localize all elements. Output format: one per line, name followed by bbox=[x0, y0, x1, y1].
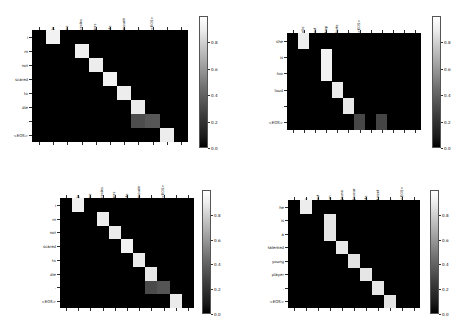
x-axis-tick bbox=[354, 308, 355, 311]
heatmap-cell bbox=[75, 44, 89, 58]
colorbar-tick-label: 0.6 bbox=[214, 237, 221, 242]
y-axis-label: not bbox=[18, 230, 56, 235]
colorbar-tick bbox=[211, 240, 213, 241]
x-axis-label: , bbox=[136, 29, 140, 30]
y-axis-tick bbox=[29, 37, 32, 38]
x-axis-tick bbox=[167, 27, 168, 30]
y-axis-tick bbox=[284, 122, 287, 123]
x-axis-label: , bbox=[149, 197, 153, 198]
colorbar bbox=[430, 190, 439, 314]
colorbar-tick bbox=[211, 289, 213, 290]
x-axis-tick bbox=[167, 142, 168, 145]
y-axis-label: to bbox=[18, 257, 56, 262]
y-axis-tick bbox=[285, 274, 288, 275]
colorbar-tick bbox=[441, 122, 443, 123]
heatmap-plot-area bbox=[288, 200, 420, 308]
colorbar-tick-label: 0.8 bbox=[444, 40, 451, 45]
x-axis-label: joueur bbox=[352, 189, 356, 200]
x-axis-tick bbox=[67, 142, 68, 145]
x-axis-label: je bbox=[76, 195, 80, 198]
x-axis-label: mourir bbox=[122, 18, 126, 30]
colorbar-tick bbox=[208, 69, 210, 70]
y-axis-label: scared bbox=[18, 244, 56, 249]
colorbar-tick bbox=[441, 42, 443, 43]
colorbar-tick-label: 0.6 bbox=[211, 66, 218, 71]
y-axis-label: player bbox=[246, 272, 284, 277]
x-axis-tick bbox=[110, 142, 111, 145]
x-axis-label: elle bbox=[301, 27, 305, 33]
heatmap-cell bbox=[89, 58, 103, 72]
y-axis-label: he bbox=[246, 204, 284, 209]
x-axis-label: de bbox=[364, 196, 368, 201]
x-axis-label: jeune bbox=[340, 190, 344, 200]
heatmap-plot-area bbox=[32, 30, 188, 142]
x-axis-tick bbox=[326, 130, 327, 133]
heatmap-plot-area bbox=[60, 198, 194, 308]
y-axis-label: too bbox=[245, 71, 283, 76]
heatmap-cell bbox=[157, 281, 169, 295]
x-axis-tick bbox=[66, 195, 67, 198]
y-axis-label: is bbox=[246, 218, 284, 223]
heatmap-cell bbox=[72, 198, 84, 212]
x-axis-tick bbox=[393, 30, 394, 33]
x-axis-tick bbox=[393, 130, 394, 133]
colorbar-tick-label: 0.2 bbox=[211, 119, 218, 124]
x-axis-tick bbox=[402, 308, 403, 311]
y-axis-label: <EOS> bbox=[246, 299, 284, 304]
x-axis-tick bbox=[103, 308, 104, 311]
y-axis-label: i bbox=[0, 35, 28, 40]
x-axis-tick bbox=[348, 130, 349, 133]
x-axis-tick bbox=[138, 142, 139, 145]
y-axis-tick bbox=[285, 288, 288, 289]
x-axis-label: <EOS> bbox=[400, 187, 404, 200]
x-axis-tick bbox=[78, 308, 79, 311]
heatmap-cell bbox=[321, 49, 332, 81]
y-axis-label: talented bbox=[246, 245, 284, 250]
x-axis-tick bbox=[360, 130, 361, 133]
x-axis-label: <EOS> bbox=[161, 185, 165, 198]
heatmap-cell bbox=[332, 82, 343, 98]
y-axis-label: to bbox=[0, 91, 28, 96]
colorbar-tick-label: 0.0 bbox=[211, 146, 218, 151]
heatmap-cell bbox=[97, 212, 109, 226]
heatmap-cell bbox=[145, 281, 157, 295]
heatmap-cell bbox=[103, 72, 117, 86]
heatmap-cell bbox=[109, 226, 121, 240]
heatmap-cell bbox=[372, 281, 384, 295]
x-axis-tick bbox=[371, 130, 372, 133]
heatmap-cell bbox=[348, 254, 360, 268]
x-axis-label: ne bbox=[88, 194, 92, 199]
colorbar-tick bbox=[211, 314, 213, 315]
heatmap-cell bbox=[160, 128, 174, 142]
heatmap-cell bbox=[300, 200, 312, 214]
x-axis-label: de bbox=[108, 26, 112, 31]
x-axis-label: est bbox=[313, 28, 317, 34]
x-axis-tick bbox=[337, 130, 338, 133]
heatmap-cell bbox=[121, 239, 133, 253]
x-axis-tick bbox=[414, 308, 415, 311]
x-axis-tick bbox=[306, 308, 307, 311]
figure-grid: jenecrainspasdemourir,<EOS>imnotscaredto… bbox=[0, 0, 459, 334]
y-axis-label: <EOS> bbox=[245, 119, 283, 124]
y-axis-label: i bbox=[18, 202, 56, 207]
x-axis-tick bbox=[90, 308, 91, 311]
heatmap-cell bbox=[133, 253, 145, 267]
colorbar-tick bbox=[208, 122, 210, 123]
x-axis-tick bbox=[39, 142, 40, 145]
heatmap-cell bbox=[376, 114, 387, 130]
x-axis-tick bbox=[188, 195, 189, 198]
x-axis-label: pas bbox=[93, 24, 97, 30]
x-axis-tick bbox=[39, 27, 40, 30]
colorbar-tick bbox=[211, 264, 213, 265]
colorbar-tick bbox=[439, 215, 441, 216]
x-axis-tick bbox=[415, 130, 416, 133]
panel-bottom-left: jenecrainspasdemourir,<EOS>imnotscaredto… bbox=[0, 170, 229, 334]
panel-bottom-right: cestunjeunejoueurdetalent,<EOS>heisatale… bbox=[229, 170, 459, 334]
colorbar-tick-label: 0.2 bbox=[442, 287, 449, 292]
x-axis-tick bbox=[181, 27, 182, 30]
x-axis-label: je bbox=[51, 27, 55, 30]
x-axis-tick bbox=[330, 308, 331, 311]
x-axis-tick bbox=[294, 308, 295, 311]
colorbar-tick-label: 0.4 bbox=[444, 93, 451, 98]
x-axis-tick bbox=[115, 308, 116, 311]
